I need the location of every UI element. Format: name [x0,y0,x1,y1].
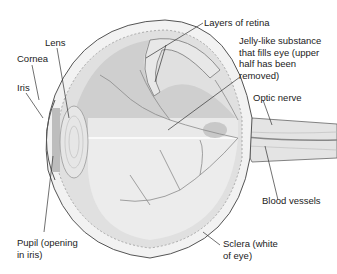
label-iris: Iris [17,82,30,94]
iris-shape [52,108,60,172]
label-sclera: Sclera (white of eye) [223,238,278,261]
label-optic-nerve: Optic nerve [253,92,302,104]
label-blood-vessels: Blood vessels [262,195,321,207]
label-vitreous: Jelly-like substance that fills eye (upp… [239,35,321,81]
label-pupil: Pupil (opening in iris) [17,237,78,260]
eye-diagram: Lens Cornea Iris Layers of retina Jelly-… [0,0,337,274]
label-cornea: Cornea [17,53,48,65]
optic-nerve-shape [246,118,337,162]
label-layers-of-retina: Layers of retina [204,17,269,29]
lens-shape [60,106,88,178]
label-lens: Lens [45,37,66,49]
